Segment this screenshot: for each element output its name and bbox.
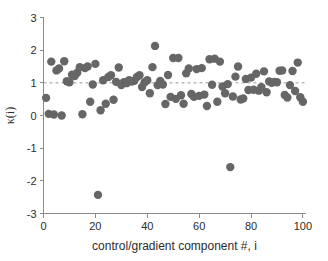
data-point xyxy=(177,91,185,99)
data-point xyxy=(260,67,268,75)
data-point xyxy=(57,111,65,119)
x-tick-label: 80 xyxy=(245,220,257,232)
data-point xyxy=(200,90,208,98)
data-point xyxy=(179,100,187,108)
data-point xyxy=(78,110,86,118)
data-point xyxy=(198,64,206,72)
data-point xyxy=(146,89,154,97)
data-point xyxy=(50,110,58,118)
data-point xyxy=(91,60,99,68)
data-point xyxy=(42,94,50,102)
x-axis-label: control/gradient component #, i xyxy=(92,239,257,253)
data-point xyxy=(273,78,281,86)
data-point xyxy=(288,67,296,75)
data-point xyxy=(109,96,117,104)
data-point xyxy=(55,64,63,72)
data-point xyxy=(229,92,237,100)
figure-container: -3-2-10123020406080100 control/gradient … xyxy=(0,0,328,261)
data-point xyxy=(174,54,182,62)
data-point xyxy=(96,106,104,114)
x-tick-label: 0 xyxy=(40,220,46,232)
y-tick-label: -3 xyxy=(27,208,37,220)
data-point xyxy=(107,71,115,79)
y-axis-label: κ(i) xyxy=(3,107,17,124)
x-tick-label: 60 xyxy=(193,220,205,232)
data-point xyxy=(216,57,224,65)
x-tick-label: 40 xyxy=(141,220,153,232)
data-point xyxy=(89,80,97,88)
data-point xyxy=(151,42,159,50)
data-point xyxy=(135,71,143,79)
data-point xyxy=(252,69,260,77)
x-tick-label: 20 xyxy=(89,220,101,232)
data-point xyxy=(234,62,242,70)
data-point xyxy=(60,57,68,65)
data-point xyxy=(164,71,172,79)
plot-background xyxy=(0,0,328,261)
data-point xyxy=(161,100,169,108)
data-point xyxy=(143,76,151,84)
y-tick-label: 2 xyxy=(30,44,36,56)
data-point xyxy=(283,93,291,101)
y-tick-label: 3 xyxy=(30,12,36,24)
y-tick-label: 0 xyxy=(30,110,36,122)
data-point xyxy=(208,81,216,89)
data-point xyxy=(226,163,234,171)
data-point xyxy=(223,80,231,88)
data-point xyxy=(94,191,102,199)
data-point xyxy=(159,80,167,88)
data-point xyxy=(213,98,221,106)
data-point xyxy=(115,63,123,71)
data-point xyxy=(102,100,110,108)
data-point xyxy=(299,98,307,106)
data-point xyxy=(231,72,239,80)
data-point xyxy=(86,98,94,106)
data-point xyxy=(294,58,302,66)
data-point xyxy=(47,57,55,65)
data-point xyxy=(83,62,91,70)
y-tick-label: 1 xyxy=(30,77,36,89)
scatter-plot: -3-2-10123020406080100 control/gradient … xyxy=(0,0,328,261)
data-point xyxy=(278,66,286,74)
x-tick-label: 100 xyxy=(294,220,312,232)
data-point xyxy=(262,88,270,96)
y-tick-label: -1 xyxy=(27,142,37,154)
y-tick-label: -2 xyxy=(27,175,37,187)
data-point xyxy=(185,64,193,72)
data-point xyxy=(148,63,156,71)
data-point xyxy=(203,102,211,110)
data-point xyxy=(221,89,229,97)
data-point xyxy=(239,94,247,102)
